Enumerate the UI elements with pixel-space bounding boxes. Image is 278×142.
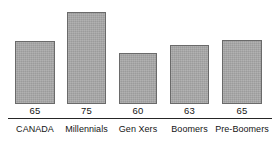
category-label-pre-boomers: Pre-Boomers [202,122,278,137]
bar-chart: 65 75 60 63 65 CANADA Millennials Gen Xe… [0,0,278,142]
bar-boomers [170,45,209,104]
axis-line [8,118,272,119]
category-labels-row: CANADA Millennials Gen Xers Boomers Pre-… [0,122,278,138]
chart-plot-area [0,0,278,104]
value-labels-row: 65 75 60 63 65 [0,104,278,118]
bar-millennials [67,12,106,104]
bar-gen-xers [119,53,157,104]
bar-canada [15,41,55,104]
bar-pre-boomers [222,40,262,104]
value-label-boomers: 63 [160,104,220,118]
value-label-pre-boomers: 65 [212,104,272,118]
